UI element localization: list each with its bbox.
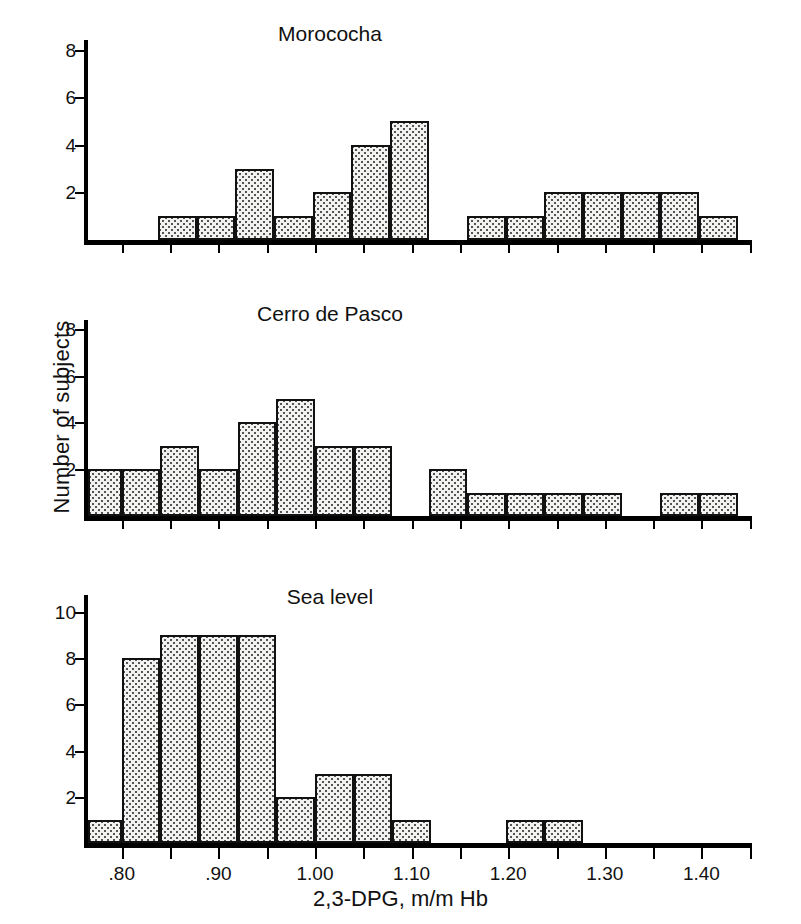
x-tick-sea-level-0.9 <box>218 848 220 859</box>
x-axis-line-sea-level <box>84 843 752 848</box>
x-tick-sea-level-1.25 <box>557 848 559 859</box>
y-axis-line-sea-level <box>84 595 88 846</box>
x-tick-sea-level-0.8 <box>122 848 124 859</box>
bar-sea-level-9 <box>506 820 545 843</box>
bar-sea-level-8 <box>392 820 431 843</box>
x-tick-label-1.40: 1.40 <box>683 863 720 885</box>
x-tick-sea-level-1.3 <box>605 848 607 859</box>
y-tick-sea-level-10 <box>75 612 84 614</box>
x-tick-sea-level-1 <box>315 848 317 859</box>
x-tick-sea-level-1.4 <box>701 848 703 859</box>
y-tick-label-sea-level-2: 2 <box>65 787 76 806</box>
bar-sea-level-3 <box>199 635 238 843</box>
x-tick-sea-level-1.35 <box>653 848 655 859</box>
panel-title-sea-level: Sea level <box>287 585 373 609</box>
y-tick-label-sea-level-10: 10 <box>55 603 76 622</box>
x-tick-sea-level-1.15 <box>460 848 462 859</box>
y-tick-label-sea-level-4: 4 <box>65 741 76 760</box>
plot-area-sea-level: 246810.80.901.001.101.201.301.40 <box>88 595 750 843</box>
panel-sea-level: 246810.80.901.001.101.201.301.40Sea leve… <box>0 0 801 924</box>
y-tick-label-sea-level-6: 6 <box>65 695 76 714</box>
x-tick-label-.90: .90 <box>205 863 231 885</box>
x-tick-label-.80: .80 <box>109 863 135 885</box>
bar-sea-level-5 <box>276 797 315 843</box>
y-tick-label-sea-level-8: 8 <box>65 649 76 668</box>
y-tick-sea-level-2 <box>75 797 84 799</box>
bar-sea-level-0 <box>88 820 122 843</box>
bar-sea-level-10 <box>544 820 583 843</box>
x-tick-label-1.20: 1.20 <box>490 863 527 885</box>
x-tick-sea-level-1.2 <box>508 848 510 859</box>
x-tick-label-1.30: 1.30 <box>586 863 623 885</box>
histogram-figure: Number of subjects 2468Morococha 2468Cer… <box>0 0 801 924</box>
x-tick-label-1.10: 1.10 <box>393 863 430 885</box>
bar-sea-level-6 <box>315 774 354 843</box>
x-tick-sea-level-1.05 <box>363 848 365 859</box>
x-axis-title: 2,3-DPG, m/m Hb <box>0 886 801 912</box>
x-tick-sea-level-1.1 <box>412 848 414 859</box>
x-tick-label-1.00: 1.00 <box>297 863 334 885</box>
y-tick-sea-level-6 <box>75 704 84 706</box>
bar-sea-level-4 <box>238 635 277 843</box>
x-tick-sea-level-0.85 <box>170 848 172 859</box>
bar-sea-level-7 <box>354 774 393 843</box>
bar-sea-level-1 <box>122 658 161 843</box>
x-tick-sea-level-0.95 <box>267 848 269 859</box>
y-tick-sea-level-8 <box>75 658 84 660</box>
x-tick-sea-level-1.45 <box>750 848 752 859</box>
bar-sea-level-2 <box>160 635 199 843</box>
